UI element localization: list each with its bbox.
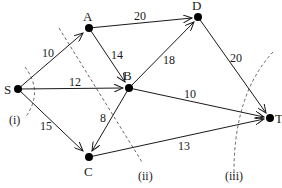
edge-B-D xyxy=(129,22,194,88)
node-B xyxy=(125,84,133,92)
node-label-T: T xyxy=(275,111,282,126)
capacity-B-D: 18 xyxy=(163,53,175,67)
capacity-S-C: 15 xyxy=(40,119,52,133)
cut-line-i xyxy=(25,67,35,118)
capacity-C-T: 13 xyxy=(178,139,190,153)
diagram-svg: S A B C D T 10 12 15 14 20 18 8 10 20 13… xyxy=(0,0,282,188)
edge-D-T xyxy=(198,17,266,113)
node-A xyxy=(85,24,93,32)
edge-B-C xyxy=(92,88,129,151)
capacity-S-B: 12 xyxy=(69,75,81,89)
capacity-B-C: 8 xyxy=(100,111,106,125)
node-label-B: B xyxy=(123,68,132,83)
cut-line-iii xyxy=(234,52,273,176)
cut-label-ii: (ii) xyxy=(138,169,153,183)
node-C xyxy=(85,153,93,161)
capacity-S-A: 10 xyxy=(42,46,54,60)
capacity-A-D: 20 xyxy=(134,9,146,23)
node-label-D: D xyxy=(192,0,201,13)
node-label-S: S xyxy=(4,82,11,97)
network-flow-diagram: S A B C D T 10 12 15 14 20 18 8 10 20 13… xyxy=(0,0,282,188)
node-label-C: C xyxy=(84,164,93,179)
cut-label-iii: (iii) xyxy=(225,169,243,183)
node-T xyxy=(266,114,274,122)
capacity-D-T: 20 xyxy=(230,51,242,65)
node-D xyxy=(194,13,202,21)
capacity-B-T: 10 xyxy=(184,87,196,101)
edge-C-T xyxy=(89,119,264,157)
cut-label-i: (i) xyxy=(9,113,20,127)
node-label-A: A xyxy=(83,9,93,24)
cut-line-ii xyxy=(59,28,142,162)
edge-B-T xyxy=(129,88,264,117)
capacity-A-B: 14 xyxy=(111,48,123,62)
node-S xyxy=(14,85,22,93)
